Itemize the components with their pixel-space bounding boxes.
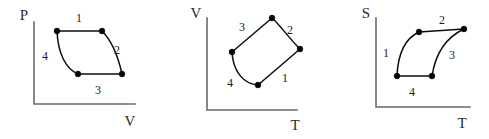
panel-vt-process-3-label: 3 (239, 20, 245, 34)
panel-vt-process-4-label: 4 (227, 76, 233, 90)
panel-st-x-axis-label: T (457, 115, 466, 131)
panel-vt-state-point-c (255, 82, 261, 88)
panel-pv-x-axis-label: V (125, 113, 136, 129)
panel-pv-state-point-b (99, 28, 105, 34)
panel-vt-process-1-path (258, 49, 300, 85)
panel-vt-process-3-path (232, 18, 272, 52)
panel-pv-process-4-path (57, 31, 78, 74)
panel-st-process-2-path (419, 29, 464, 32)
panel-st-process-1-label: 1 (383, 46, 389, 60)
panel-st-state-point-c (461, 26, 467, 32)
panel-vt-x-axis-label: T (290, 117, 299, 133)
panel-st-process-2-label: 2 (439, 13, 445, 27)
panel-vt: 3 2 1 4 V T (191, 5, 303, 133)
panel-vt-process-1-label: 1 (282, 71, 288, 85)
panel-st-state-point-d (429, 73, 435, 79)
panel-vt-process-4-path (232, 52, 258, 85)
panel-vt-state-point-d (229, 49, 235, 55)
panel-pv-state-point-d (75, 71, 81, 77)
panel-pv-process-3-label: 3 (95, 83, 101, 97)
panel-st-y-axis-label: S (362, 5, 370, 21)
panel-st-process-1-path (397, 32, 419, 76)
panel-pv-process-1-label: 1 (76, 11, 82, 25)
panel-pv-y-axis-label: P (20, 7, 28, 23)
panel-vt-process-2-label: 2 (287, 23, 293, 37)
panel-st-process-3-label: 3 (449, 48, 455, 62)
panel-st: 1 2 3 4 S T (362, 5, 470, 131)
thermodynamic-cycle-figure: 1 2 3 4 P V 3 2 1 4 V (0, 0, 489, 139)
figure-canvas: 1 2 3 4 P V 3 2 1 4 V (0, 0, 489, 139)
panel-st-process-4-label: 4 (409, 85, 415, 99)
panel-vt-state-point-a (269, 15, 275, 21)
panel-pv-process-2-label: 2 (114, 43, 120, 57)
panel-vt-y-axis-label: V (191, 5, 202, 21)
panel-pv: 1 2 3 4 P V (20, 7, 136, 129)
panel-pv-process-4-label: 4 (42, 49, 48, 63)
panel-st-process-3-path (432, 29, 464, 76)
panel-st-state-point-b (416, 29, 422, 35)
panel-pv-state-point-c (119, 71, 125, 77)
panel-vt-process-2-path (272, 18, 300, 49)
panel-pv-state-point-a (54, 28, 60, 34)
panel-st-state-point-a (394, 73, 400, 79)
panel-vt-state-point-b (297, 46, 303, 52)
